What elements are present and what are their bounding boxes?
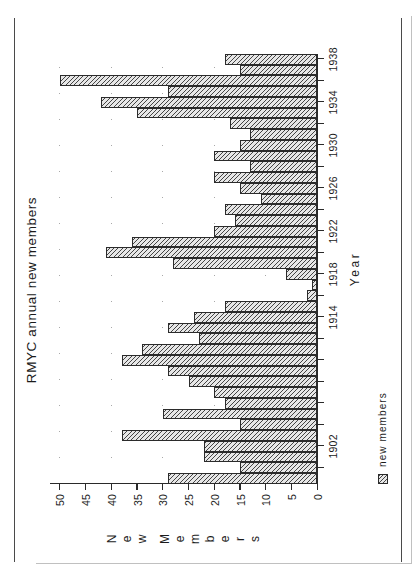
- bar-slot: [50, 215, 317, 226]
- bar[interactable]: [250, 129, 317, 140]
- bar[interactable]: [286, 269, 317, 280]
- legend: new members: [377, 392, 388, 484]
- y-axis-title-letter: M: [158, 534, 173, 544]
- bar[interactable]: [142, 344, 317, 355]
- bar[interactable]: [225, 398, 317, 409]
- bar-series: [50, 54, 317, 484]
- bar[interactable]: [168, 365, 317, 376]
- x-axis-tick-label: 1938: [327, 47, 339, 71]
- bar[interactable]: [137, 107, 317, 118]
- x-axis-tick-label: 1918: [327, 262, 339, 286]
- y-axis-tick: [317, 484, 318, 490]
- bar[interactable]: [214, 150, 317, 161]
- bar-slot: [50, 150, 317, 161]
- y-axis-tick: [214, 484, 215, 490]
- bar[interactable]: [230, 118, 317, 129]
- y-axis-tick: [59, 484, 60, 490]
- y-axis-title-letter: m: [188, 534, 203, 544]
- bar[interactable]: [240, 64, 317, 75]
- bar-slot: [50, 118, 317, 129]
- bar-slot: [50, 430, 317, 441]
- bar-slot: [50, 419, 317, 430]
- bar[interactable]: [240, 462, 317, 473]
- bar[interactable]: [122, 430, 317, 441]
- x-axis-tick: [318, 208, 324, 209]
- bar[interactable]: [60, 75, 317, 86]
- bar[interactable]: [225, 301, 317, 312]
- bar-slot: [50, 97, 317, 108]
- y-axis-title-letter: r: [233, 537, 248, 541]
- bar-slot: [50, 355, 317, 366]
- y-axis-tick: [265, 484, 266, 490]
- chart-title: RMYC annual new members: [24, 10, 39, 570]
- y-axis-tick-label: 30: [157, 494, 169, 506]
- bar-slot: [50, 236, 317, 247]
- y-axis-tick-label: 50: [54, 494, 66, 506]
- x-axis-tick: [318, 79, 324, 80]
- bar-slot: [50, 290, 317, 301]
- bar[interactable]: [163, 408, 317, 419]
- x-axis-tick: [318, 359, 324, 360]
- bar[interactable]: [173, 258, 317, 269]
- bar-slot: [50, 333, 317, 344]
- bar-slot: [50, 247, 317, 258]
- x-axis-tick: [318, 316, 324, 317]
- y-axis-tick-label: 20: [209, 494, 221, 506]
- bar-slot: [50, 387, 317, 398]
- bar[interactable]: [261, 193, 317, 204]
- bar[interactable]: [235, 215, 317, 226]
- x-axis-tick-label: 1934: [327, 90, 339, 114]
- bar[interactable]: [106, 247, 317, 258]
- rotated-figure-canvas: RMYC annual new members NewMembers 05101…: [6, 10, 406, 570]
- y-axis-tick-label: 35: [132, 494, 144, 506]
- y-axis-tick: [136, 484, 137, 490]
- bar[interactable]: [168, 322, 317, 333]
- bar[interactable]: [194, 312, 317, 323]
- bar[interactable]: [250, 161, 317, 172]
- bar[interactable]: [214, 226, 317, 237]
- bar-slot: [50, 54, 317, 65]
- bar[interactable]: [214, 387, 317, 398]
- y-axis-title-letter: s: [248, 536, 263, 542]
- y-axis-tick-label: 25: [183, 494, 195, 506]
- bar[interactable]: [225, 54, 317, 65]
- x-axis-tick: [318, 165, 324, 166]
- bar-slot: [50, 86, 317, 97]
- bar[interactable]: [307, 290, 317, 301]
- y-axis-line: [50, 482, 318, 483]
- bar[interactable]: [225, 204, 317, 215]
- bar-slot: [50, 107, 317, 118]
- figure-page: RMYC annual new members NewMembers 05101…: [0, 0, 412, 579]
- bar-slot: [50, 193, 317, 204]
- bar[interactable]: [240, 183, 317, 194]
- bar[interactable]: [240, 419, 317, 430]
- page-rule-bottom: [401, 18, 402, 562]
- x-axis-tick-label: 1914: [327, 305, 339, 329]
- x-axis-line: [317, 54, 318, 484]
- bar-slot: [50, 462, 317, 473]
- bar[interactable]: [189, 376, 317, 387]
- page-rule-top: [14, 18, 15, 562]
- bar[interactable]: [132, 236, 317, 247]
- x-axis-tick: [318, 445, 324, 446]
- bar[interactable]: [122, 355, 317, 366]
- y-axis-title-letter: e: [218, 535, 233, 542]
- x-axis-tick: [318, 58, 324, 59]
- x-axis-tick: [318, 466, 324, 467]
- x-axis-tick: [318, 380, 324, 381]
- bar-slot: [50, 398, 317, 409]
- y-axis-tick: [239, 484, 240, 490]
- x-axis-title: Year: [348, 54, 362, 484]
- y-axis-title-letter: e: [120, 535, 135, 542]
- bar[interactable]: [101, 97, 317, 108]
- bar[interactable]: [240, 140, 317, 151]
- y-axis-tick: [291, 484, 292, 490]
- bar-slot: [50, 301, 317, 312]
- bar[interactable]: [168, 86, 317, 97]
- bar[interactable]: [204, 441, 317, 452]
- bar[interactable]: [204, 451, 317, 462]
- bar[interactable]: [214, 172, 317, 183]
- bar[interactable]: [199, 333, 317, 344]
- bar-slot: [50, 183, 317, 194]
- bar-slot: [50, 75, 317, 86]
